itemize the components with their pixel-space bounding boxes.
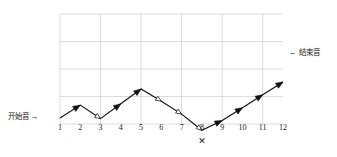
- arrowhead-hollow: [95, 114, 101, 119]
- pitch-contour-figure: 开始音 → ← 结束音 123456789101112 ✕: [0, 0, 337, 157]
- x-tick-label-9: 9: [220, 123, 224, 132]
- x-tick-label-2: 2: [78, 123, 82, 132]
- x-tick-label-6: 6: [159, 123, 163, 132]
- x-tick-label-8: 8: [200, 123, 204, 132]
- arrowhead-solid: [275, 82, 283, 88]
- start-note-label: 开始音 →: [8, 110, 39, 121]
- x-tick-label-3: 3: [99, 123, 103, 132]
- contour-polyline: [60, 82, 283, 130]
- arrowhead-solid: [134, 89, 142, 96]
- arrowhead-solid: [113, 104, 121, 111]
- arrowhead-solid: [73, 105, 81, 111]
- x-tick-label-11: 11: [259, 123, 267, 132]
- contour-svg: [0, 0, 337, 157]
- x-tick-label-4: 4: [119, 123, 123, 132]
- x-tick-label-12: 12: [279, 123, 287, 132]
- cross-mark: ✕: [198, 136, 206, 146]
- contour-path-group: [60, 82, 283, 130]
- arrowhead-hollow: [176, 109, 182, 114]
- x-tick-label-1: 1: [58, 123, 62, 132]
- arrowhead-solid: [235, 108, 243, 114]
- x-tick-label-7: 7: [180, 123, 184, 132]
- end-note-label: ← 结束音: [289, 46, 320, 57]
- arrowhead-solid: [255, 95, 263, 101]
- arrowhead-hollow: [155, 96, 161, 101]
- x-tick-label-5: 5: [139, 123, 143, 132]
- x-tick-label-10: 10: [238, 123, 246, 132]
